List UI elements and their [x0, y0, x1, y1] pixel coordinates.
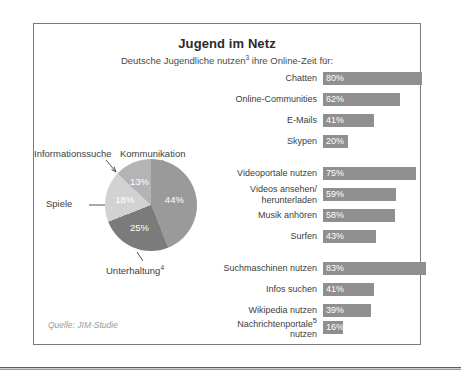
bar-track: 41%: [323, 283, 374, 296]
pie-chart: 44%25%18%13%KommunikationUnterhaltung4Sp…: [42, 124, 222, 324]
pie-slice-value-spiele: 18%: [115, 194, 134, 205]
bar-value-label: 59%: [326, 188, 344, 201]
pie-slice-value-kommunikation: 44%: [165, 194, 184, 205]
infographic-panel: Jugend im Netz Deutsche Jugendliche nutz…: [33, 23, 421, 345]
bar-fill: 39%: [323, 304, 371, 317]
bar-fill: 58%: [323, 209, 395, 222]
bar-track: 80%: [323, 72, 422, 85]
bar-fill: 41%: [323, 283, 374, 296]
bar-label: Chatten: [34, 72, 323, 85]
bottom-divider: [0, 367, 461, 370]
bar-track: 20%: [323, 135, 348, 148]
page-subtitle: Deutsche Jugendliche nutzen3 ihre Online…: [34, 54, 420, 66]
pie-category-label-informationssuche: Informationssuche: [34, 148, 112, 159]
source-note: Quelle: JIM-Studie: [48, 320, 118, 330]
bar-value-label: 62%: [326, 93, 344, 106]
bar-fill: 20%: [323, 135, 348, 148]
bar-value-label: 20%: [326, 135, 344, 148]
bar-track: 41%: [323, 114, 374, 127]
bar-fill: 83%: [323, 262, 426, 275]
bar-fill: 80%: [323, 72, 422, 85]
bar-track: 59%: [323, 188, 396, 201]
bar-value-label: 83%: [326, 262, 344, 275]
pie-category-label-kommunikation: Kommunikation: [120, 148, 185, 159]
bar-row: Online-Communities62%: [34, 93, 422, 106]
pie-slice-value-unterhaltung: 25%: [130, 222, 149, 233]
bar-value-label: 41%: [326, 283, 344, 296]
bar-value-label: 16%: [326, 321, 344, 334]
bar-value-label: 41%: [326, 114, 344, 127]
bar-fill: 75%: [323, 167, 416, 180]
bar-track: 62%: [323, 93, 400, 106]
bar-track: 16%: [323, 321, 343, 334]
pie-slice-value-informationssuche: 13%: [130, 176, 149, 187]
pie-category-label-spiele: Spiele: [46, 198, 72, 209]
bar-track: 83%: [323, 262, 426, 275]
bar-track: 58%: [323, 209, 395, 222]
subtitle-text-post: ihre Online-Zeit für:: [249, 55, 333, 66]
bar-value-label: 39%: [326, 304, 344, 317]
bar-fill: 43%: [323, 230, 376, 243]
bar-track: 39%: [323, 304, 371, 317]
bar-track: 75%: [323, 167, 416, 180]
bar-value-label: 43%: [326, 230, 344, 243]
bar-value-label: 80%: [326, 72, 344, 85]
bar-label: Online-Communities: [34, 93, 323, 106]
pie-category-label-unterhaltung: Unterhaltung4: [106, 264, 164, 276]
bar-fill: 62%: [323, 93, 400, 106]
page-title: Jugend im Netz: [34, 36, 420, 51]
bar-fill: 41%: [323, 114, 374, 127]
bar-track: 43%: [323, 230, 376, 243]
bar-fill: 16%: [323, 321, 343, 334]
bar-value-label: 75%: [326, 167, 344, 180]
bar-row: Chatten80%: [34, 72, 422, 85]
bar-fill: 59%: [323, 188, 396, 201]
bar-value-label: 58%: [326, 209, 344, 222]
subtitle-text-pre: Deutsche Jugendliche nutzen: [121, 55, 246, 66]
